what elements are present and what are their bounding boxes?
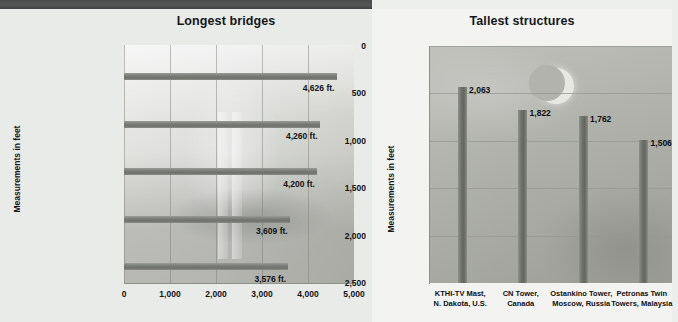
gridline-vertical (216, 45, 217, 283)
left-x-axis-line (124, 283, 354, 284)
right-y-axis-line (429, 46, 430, 284)
x-tick-label: 4,000 (297, 289, 318, 299)
y-tick-label: 2,000 (345, 231, 366, 241)
gridline-vertical (308, 45, 309, 283)
y-tick-label: 500 (352, 88, 366, 98)
bar (124, 73, 337, 80)
y-tick-label: 0 (361, 41, 366, 51)
left-chart-title: Longest bridges (0, 14, 372, 28)
bar (124, 263, 288, 270)
crescent-moon-icon (538, 68, 574, 104)
bar-value-label: 1,762 (590, 114, 611, 124)
category-label: Petronas TwinTowers, Malaysia (604, 289, 678, 308)
y-tick-label: 1,500 (345, 183, 366, 193)
header-rule (0, 0, 372, 9)
bar-value-label: 4,260 ft. (286, 131, 318, 141)
bar-value-label: 4,200 ft. (283, 179, 315, 189)
bar-value-label: 3,609 ft. (256, 226, 288, 236)
left-plot-area (124, 45, 354, 283)
gridline-horizontal (430, 46, 672, 47)
bar (518, 110, 527, 283)
gridline-vertical (124, 45, 125, 283)
right-plot-area (430, 46, 672, 283)
x-tick-label: 3,000 (251, 289, 272, 299)
right-chart-title: Tallest structures (372, 14, 672, 28)
right-y-axis-title: Measurements in feet (386, 144, 396, 234)
bar-value-label: 4,626 ft. (303, 83, 335, 93)
bar (124, 121, 320, 128)
x-tick-label: 2,000 (205, 289, 226, 299)
bridge-tower-left (218, 112, 228, 260)
gridline-vertical (170, 45, 171, 283)
bar (124, 216, 290, 223)
left-y-axis-title: Measurements in feet (12, 124, 22, 214)
bar-value-label: 3,576 ft. (254, 274, 286, 284)
bar (639, 140, 648, 283)
bar (458, 87, 467, 283)
bridge-tower-right (232, 112, 242, 260)
bar (124, 168, 317, 175)
tallest-structures-panel: Tallest structures Measurements in feet … (372, 9, 672, 322)
bar-value-label: 2,063 (469, 85, 490, 95)
y-tick-label: 1,000 (345, 136, 366, 146)
longest-bridges-panel: Longest bridges Measurements in feet Hum… (0, 9, 372, 322)
y-tick-label: 2,500 (345, 278, 366, 288)
x-tick-label: 1,000 (159, 289, 180, 299)
bar-value-label: 1,506 (651, 138, 672, 148)
bar-value-label: 1,822 (530, 108, 551, 118)
bar (579, 116, 588, 283)
gridline-vertical (262, 45, 263, 283)
x-tick-label: 0 (122, 289, 127, 299)
x-tick-label: 5,000 (343, 289, 364, 299)
